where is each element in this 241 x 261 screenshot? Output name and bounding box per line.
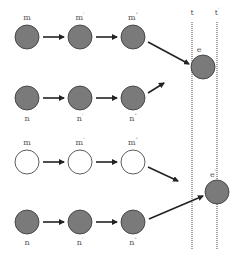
- row1-label-1: m′: [76, 11, 86, 22]
- row4-label-0: n: [24, 238, 29, 247]
- row3-node-m: [15, 150, 39, 174]
- labels: tt′mm′m″nn′n″mm′m″nn′n″ee′: [23, 6, 220, 247]
- row1-node-m: [15, 25, 39, 49]
- row3-label-1: m′: [76, 136, 86, 147]
- row1-node-m-double-prime: [121, 25, 145, 49]
- row4-label-2: n″: [129, 236, 137, 247]
- row1-label-0: m: [23, 13, 31, 22]
- row3-node-m-double-prime: [121, 150, 145, 174]
- row3-label-2: m″: [128, 136, 139, 147]
- row4-node-n-prime: [68, 210, 92, 234]
- event-label-e: e: [197, 45, 202, 54]
- arrows: [43, 37, 203, 222]
- converging-arrow: [148, 83, 164, 93]
- row2-label-1: n′: [77, 112, 84, 123]
- row2-node-n: [15, 86, 39, 110]
- row1-node-m-prime: [68, 25, 92, 49]
- event-node-e-prime: [205, 180, 229, 204]
- row4-node-n: [15, 210, 39, 234]
- timeline-label-t-prime: t′: [215, 6, 220, 17]
- event-diagram: tt′mm′m″nn′n″mm′m″nn′n″ee′: [0, 0, 241, 261]
- converging-arrow: [148, 42, 189, 64]
- row4-node-n-double-prime: [121, 210, 145, 234]
- row2-node-n-double-prime: [121, 86, 145, 110]
- converging-arrow: [148, 167, 178, 181]
- event-label-e-prime: e′: [210, 168, 217, 179]
- timeline-label-t: t: [190, 8, 194, 17]
- row2-label-0: n: [24, 114, 29, 123]
- row1-label-2: m″: [128, 11, 139, 22]
- row2-node-n-prime: [68, 86, 92, 110]
- row4-label-1: n′: [77, 236, 84, 247]
- converging-arrow: [149, 196, 203, 219]
- event-node-e: [191, 55, 215, 79]
- row3-label-0: m: [23, 138, 31, 147]
- row3-node-m-prime: [68, 150, 92, 174]
- nodes: [15, 25, 229, 234]
- row2-label-2: n″: [129, 112, 137, 123]
